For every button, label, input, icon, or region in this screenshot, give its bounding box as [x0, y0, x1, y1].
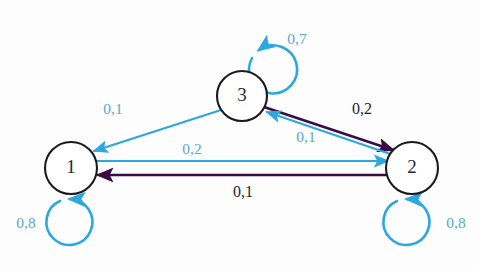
- self-loop-node-2: [383, 199, 429, 245]
- self-loop-node-1: [46, 199, 92, 245]
- node-1-label: 1: [66, 156, 76, 177]
- node-2[interactable]: 2: [386, 142, 438, 194]
- self-loop-label-1: 0,8: [16, 214, 36, 231]
- node-2-label: 2: [407, 156, 417, 177]
- edge-3-to-2: [264, 107, 393, 150]
- graph-svg: 1 2 3 0,1 0,2 0,1 0,2 0,1 0,7 0,8 0,8: [0, 0, 479, 271]
- edge-label-3-to-1: 0,1: [103, 100, 122, 117]
- self-loop-label-2: 0,8: [446, 214, 466, 231]
- self-loop-label-3: 0,7: [287, 30, 307, 47]
- node-3-label: 3: [237, 84, 247, 105]
- state-diagram-canvas: 1 2 3 0,1 0,2 0,1 0,2 0,1 0,7 0,8 0,8: [0, 0, 479, 271]
- edge-3-to-2-line: [264, 107, 393, 150]
- edge-label-2-to-1: 0,1: [233, 183, 253, 200]
- edge-2-to-3-line: [267, 112, 399, 157]
- self-loop-2-path: [383, 199, 429, 245]
- node-3[interactable]: 3: [217, 71, 267, 121]
- edge-label-1-to-2: 0,2: [182, 140, 201, 157]
- self-loop-1-path: [46, 199, 92, 245]
- edge-2-to-3: [267, 112, 399, 157]
- edge-label-2-to-3: 0,1: [296, 128, 315, 145]
- node-1[interactable]: 1: [45, 142, 97, 194]
- edge-label-3-to-2: 0,2: [352, 100, 372, 117]
